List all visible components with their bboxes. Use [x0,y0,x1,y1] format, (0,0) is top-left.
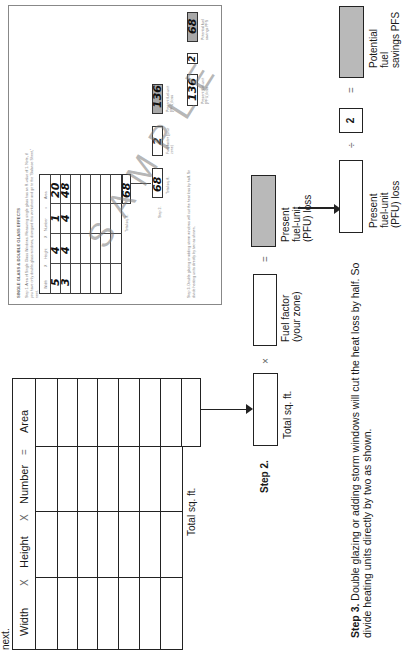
header-number: Number [18,465,30,504]
header-times-2: X [19,514,30,521]
step3-text-line-2: divide heating units directly by two as … [361,428,373,638]
row-divider [118,378,119,650]
sample-step2-label: Step 2. [158,207,162,218]
arrow-down-icon [246,404,253,414]
sample-row2-height: 4 [60,246,71,254]
sample-header-height: Height [44,249,48,259]
sample-header-equals: = [44,207,48,209]
continuation-text: next. [0,628,12,650]
worksheet-page: next. Width X Height X Number = Area Tot… [0,0,405,651]
sample-title: SINGLE GLASS & DOUBLE GLASS EFFECTS [17,208,21,298]
fuel-factor-box[interactable] [253,274,277,346]
times-operator: × [260,358,271,364]
row-divider [77,378,78,650]
step2-total-box[interactable] [253,373,278,446]
header-equals: = [19,449,30,455]
sample-header-number: Number [44,218,48,231]
divide-operator: ÷ [346,143,357,149]
sample-header-width: Width [44,280,48,289]
sample-row2-area: 48 [60,183,71,198]
sample-watermark: SAMPLE [79,46,230,255]
divisor-box[interactable]: 2 [339,108,363,133]
row-divider [97,378,98,650]
sample-header-times-1: X [44,265,48,267]
total-sq-ft-cell[interactable] [181,378,201,447]
equals-operator: = [260,256,271,262]
step3-pfu-box[interactable] [339,160,363,233]
fuel-factor-caption-2: (your zone) [291,291,303,342]
sample-step2-caption-1: Total sq. ft. [166,177,170,194]
step3-label: Step 3. [349,604,361,638]
header-height: Height [18,536,30,568]
sample-step3-caption-2: Potential fuel savings PFS [201,10,209,40]
header-area: Area [18,410,30,433]
step2-label: Step 2. [259,460,271,493]
pfu-caption-3: (PFU) loss [302,195,314,242]
pfu-loss-box[interactable] [251,175,276,247]
row-divider [160,378,161,650]
sample-step3-line-2: divide heating units directly by two as … [192,226,196,298]
sample-pfs: 68 [187,19,198,34]
step3-text-line-1: Step 3. Double glazing or adding storm w… [349,263,361,638]
row-divider [57,378,58,650]
arrow-line [200,409,248,410]
arrow-line-2 [298,207,338,209]
sample-step3-line-1: Step 3. Double glazing or adding storm w… [187,170,191,298]
sample-step1-line-2: you have only double-glass windows, disr… [30,149,34,298]
step3-pfu-caption-3: (PFU) loss [390,181,402,228]
header-width: Width [18,608,30,636]
sample-step1-line-1: Step 1. Area of Single Glass Windows. Me… [25,153,29,298]
sample-header-times-2: X [44,236,48,238]
potential-savings-box[interactable] [339,6,364,78]
step2-total-caption: Total sq. ft. [282,391,294,439]
equals-operator-2: = [346,87,357,93]
row-divider [139,378,140,650]
sample-worksheet: SINGLE GLASS & DOUBLE GLASS EFFECTS Step… [8,5,222,305]
header-times-1: X [19,579,30,586]
total-sq-ft-label: Total sq. ft. [186,488,198,536]
pfs-caption-3: savings PFS [390,12,402,68]
sample-row2-width: 3 [60,278,71,286]
table-header-divider [35,378,36,650]
sample-row2-number: 4 [60,214,71,222]
sample-header-area: Area [44,191,48,199]
